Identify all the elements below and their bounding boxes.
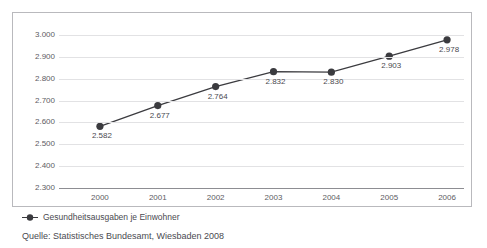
- y-axis-tick-label: 2.400: [21, 162, 55, 170]
- gridline: [59, 166, 464, 167]
- x-axis-tick-label: 2002: [194, 194, 238, 202]
- gridline: [59, 122, 464, 123]
- chart-source-note: Quelle: Statistisches Bundesamt, Wiesbad…: [22, 231, 224, 241]
- chart-plot-frame: 3.0002.9002.8002.7002.6002.5002.4002.300…: [12, 12, 472, 207]
- gridline: [59, 35, 464, 36]
- y-axis-tick-label: 2.300: [21, 184, 55, 192]
- data-point-label: 2.582: [92, 132, 112, 140]
- gridline: [59, 57, 464, 58]
- data-point-label: 2.903: [381, 62, 401, 70]
- chart-legend: Gesundheitsausgaben je Einwohner: [22, 212, 180, 222]
- y-axis-tick-label: 2.700: [21, 97, 55, 105]
- x-axis-tick-label: 2003: [252, 194, 296, 202]
- gridline: [59, 188, 464, 189]
- x-axis-tick-label: 2006: [425, 194, 469, 202]
- gridline: [59, 79, 464, 80]
- series-data-point: [328, 69, 335, 76]
- series-data-point: [154, 102, 161, 109]
- gridline: [59, 101, 464, 102]
- data-point-label: 2.764: [208, 93, 228, 101]
- chart-legend-label: Gesundheitsausgaben je Einwohner: [43, 212, 180, 222]
- chart-series-layer: [13, 13, 473, 208]
- data-point-label: 2.677: [150, 112, 170, 120]
- series-data-point: [443, 36, 450, 43]
- y-axis-tick-label: 2.600: [21, 118, 55, 126]
- x-axis-tick-label: 2004: [309, 194, 353, 202]
- data-point-label: 2.830: [323, 78, 343, 86]
- x-axis-tick-label: 2000: [78, 194, 122, 202]
- series-marker-icon: [22, 213, 38, 222]
- y-axis-tick-label: 2.800: [21, 75, 55, 83]
- chart-plot-area: 3.0002.9002.8002.7002.6002.5002.4002.300…: [13, 13, 473, 208]
- data-point-label: 2.978: [439, 46, 459, 54]
- gridline: [59, 144, 464, 145]
- y-axis-tick-label: 2.500: [21, 140, 55, 148]
- series-data-point: [96, 123, 103, 130]
- y-axis-tick-label: 2.900: [21, 53, 55, 61]
- x-axis-tick-label: 2005: [367, 194, 411, 202]
- data-point-label: 2.832: [266, 78, 286, 86]
- series-data-point: [212, 83, 219, 90]
- x-axis-tick-label: 2001: [136, 194, 180, 202]
- series-data-point: [270, 68, 277, 75]
- chart-title: im Zeitraum 2000 bis 2006: [0, 0, 487, 2]
- y-axis-tick-label: 3.000: [21, 31, 55, 39]
